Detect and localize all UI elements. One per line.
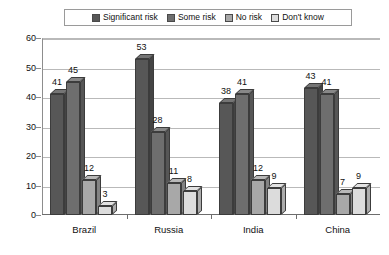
y-tick-mark-20: [36, 156, 41, 157]
bar-front-face: [352, 188, 366, 215]
bar-value-label: 12: [246, 164, 270, 173]
bar-china-some-risk: 41: [320, 94, 334, 215]
bar-brazil-don-t-know: 3: [98, 206, 112, 215]
bar-front-face: [320, 94, 334, 215]
y-axis: 0102030405060: [12, 0, 36, 255]
bar-india-don-t-know: 9: [267, 188, 281, 215]
bar-china-don-t-know: 9: [352, 188, 366, 215]
bar-front-face: [219, 103, 233, 215]
bar-front-face: [167, 183, 181, 215]
y-tick-mark-40: [36, 97, 41, 98]
legend-label-some-risk: Some risk: [178, 13, 216, 22]
bar-chart: Significant risk Some risk No risk Don't…: [0, 0, 389, 255]
bar-china-significant-risk: 43: [304, 88, 318, 215]
bar-value-label: 11: [162, 167, 186, 176]
x-category-label-russia: Russia: [134, 225, 204, 235]
bar-front-face: [50, 94, 64, 215]
bar-front-face: [336, 194, 350, 215]
legend-item-some-risk: Some risk: [167, 13, 216, 22]
y-tick-label-30: 30: [14, 123, 36, 132]
bar-value-label: 12: [77, 164, 101, 173]
x-tick-mark-1: [127, 214, 128, 219]
legend-item-dont-know: Don't know: [271, 13, 324, 22]
bar-value-label: 53: [130, 43, 154, 52]
bar-value-label: 8: [178, 175, 202, 184]
x-tick-mark-3: [296, 214, 297, 219]
bar-india-significant-risk: 38: [219, 103, 233, 215]
legend-swatch-no-risk: [225, 14, 233, 22]
legend-swatch-some-risk: [167, 14, 175, 22]
y-tick-label-20: 20: [14, 152, 36, 161]
bar-side-face: [366, 184, 371, 215]
bar-side-face: [197, 187, 202, 215]
bar-russia-don-t-know: 8: [183, 191, 197, 215]
legend-label-no-risk: No risk: [236, 13, 262, 22]
x-category-label-china: China: [303, 225, 373, 235]
bar-brazil-some-risk: 45: [66, 82, 80, 215]
y-tick-mark-0: [36, 215, 41, 216]
legend-item-no-risk: No risk: [225, 13, 262, 22]
y-tick-mark-30: [36, 127, 41, 128]
bar-side-face: [281, 184, 286, 215]
bar-india-some-risk: 41: [235, 94, 249, 215]
bar-russia-no-risk: 11: [167, 183, 181, 215]
y-tick-mark-10: [36, 186, 41, 187]
bar-front-face: [66, 82, 80, 215]
bar-front-face: [135, 59, 149, 215]
bar-front-face: [267, 188, 281, 215]
bar-china-no-risk: 7: [336, 194, 350, 215]
legend-label-significant-risk: Significant risk: [103, 13, 158, 22]
bar-russia-significant-risk: 53: [135, 59, 149, 215]
y-tick-mark-50: [36, 68, 41, 69]
y-tick-label-10: 10: [14, 182, 36, 191]
bar-front-face: [304, 88, 318, 215]
x-category-label-brazil: Brazil: [49, 225, 119, 235]
bar-group-india: 3841129: [211, 38, 296, 215]
bar-value-label: 41: [230, 78, 254, 87]
bar-value-label: 3: [93, 190, 117, 199]
bar-front-face: [98, 206, 112, 215]
bar-value-label: 41: [315, 78, 339, 87]
x-tick-mark-2: [211, 214, 212, 219]
bar-group-russia: 5328118: [127, 38, 212, 215]
y-tick-label-0: 0: [14, 211, 36, 220]
legend-item-significant-risk: Significant risk: [92, 13, 158, 22]
y-tick-label-50: 50: [14, 64, 36, 73]
legend-swatch-significant-risk: [92, 14, 100, 22]
bar-group-china: 434179: [296, 38, 381, 215]
bar-brazil-significant-risk: 41: [50, 94, 64, 215]
bars-layer: 414512353281183841129434179: [42, 38, 380, 215]
chart-legend: Significant risk Some risk No risk Don't…: [64, 9, 352, 26]
y-tick-mark-60: [36, 38, 41, 39]
x-category-label-india: India: [218, 225, 288, 235]
bar-india-no-risk: 12: [251, 180, 265, 215]
bar-front-face: [235, 94, 249, 215]
bar-front-face: [251, 180, 265, 215]
bar-value-label: 9: [262, 172, 286, 181]
y-tick-label-40: 40: [14, 93, 36, 102]
bar-front-face: [183, 191, 197, 215]
bar-value-label: 9: [347, 172, 371, 181]
bar-value-label: 28: [146, 116, 170, 125]
legend-label-dont-know: Don't know: [282, 13, 324, 22]
bar-group-brazil: 4145123: [42, 38, 127, 215]
legend-swatch-dont-know: [271, 14, 279, 22]
bar-value-label: 45: [61, 66, 85, 75]
y-tick-label-60: 60: [14, 34, 36, 43]
